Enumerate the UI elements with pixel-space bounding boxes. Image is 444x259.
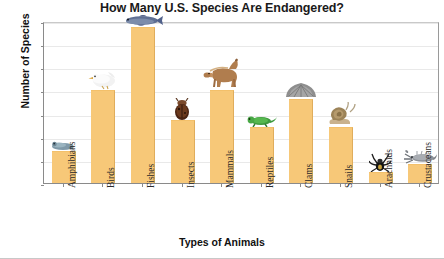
x-tick-mark xyxy=(221,184,222,187)
gridline xyxy=(44,69,438,70)
x-tick-mark xyxy=(102,184,103,187)
x-tick-mark xyxy=(261,184,262,187)
y-tick-mark xyxy=(41,92,44,93)
x-tick-label-amphibians: Amphibians xyxy=(67,142,77,188)
y-tick-mark xyxy=(41,69,44,70)
horse-icon xyxy=(200,57,244,94)
y-tick-mark xyxy=(41,139,44,140)
y-axis-label: Number of Species xyxy=(19,0,31,131)
x-tick-mark xyxy=(340,184,341,187)
x-tick-mark xyxy=(182,184,183,187)
x-tick-label-fishes: Fishes xyxy=(146,164,156,188)
x-tick-mark xyxy=(63,184,64,187)
x-tick-mark xyxy=(300,184,301,187)
x-tick-label-crustaceans: Crustaceans xyxy=(423,142,433,188)
gridline xyxy=(44,23,438,24)
x-tick-label-arachnids: Arachnids xyxy=(384,149,394,188)
y-tick-mark xyxy=(41,46,44,47)
snail-icon xyxy=(326,102,356,131)
y-tick-mark xyxy=(41,185,44,186)
x-tick-mark xyxy=(380,184,381,187)
x-tick-label-reptiles: Reptiles xyxy=(265,157,275,188)
x-tick-label-clams: Clams xyxy=(304,164,314,188)
chart-title: How Many U.S. Species Are Endangered? xyxy=(0,1,444,15)
x-tick-label-insects: Insects xyxy=(186,162,196,188)
x-tick-mark xyxy=(142,184,143,187)
x-tick-mark xyxy=(419,184,420,187)
y-tick-mark xyxy=(41,23,44,24)
plot-area xyxy=(43,22,439,184)
y-tick-mark xyxy=(41,116,44,117)
gridline xyxy=(44,46,438,47)
seagull-icon xyxy=(88,68,118,94)
chart-figure: How Many U.S. Species Are Endangered? Nu… xyxy=(0,0,444,259)
y-tick-mark xyxy=(41,162,44,163)
beetle-icon xyxy=(172,98,192,124)
x-tick-label-mammals: Mammals xyxy=(225,150,235,188)
bar-fishes[interactable] xyxy=(131,27,155,183)
x-axis-label: Types of Animals xyxy=(0,236,444,248)
x-tick-label-birds: Birds xyxy=(106,167,116,188)
x-tick-label-snails: Snails xyxy=(344,165,354,188)
